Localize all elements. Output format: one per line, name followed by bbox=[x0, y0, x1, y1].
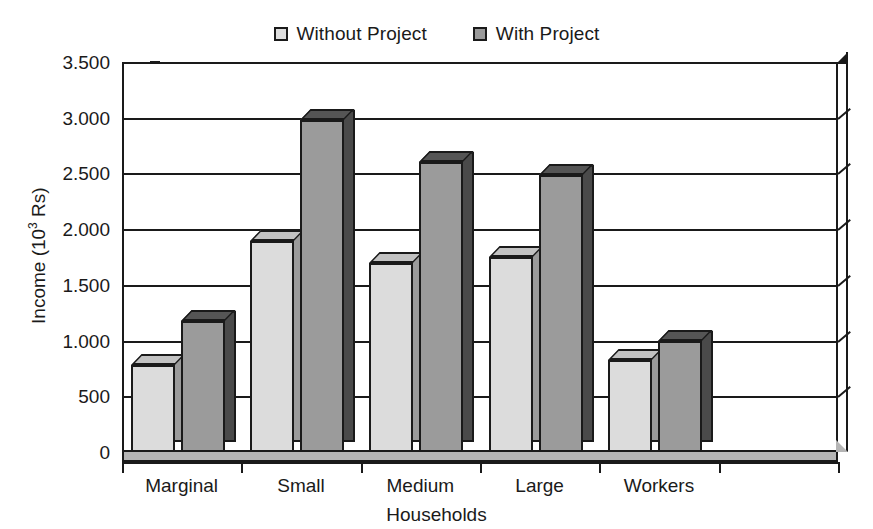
legend-swatch-icon-with-project bbox=[473, 27, 487, 41]
x-axis-tick-mark bbox=[599, 462, 601, 473]
x-axis-title: Households bbox=[0, 505, 873, 525]
y-axis-tick-label: 1.000 bbox=[38, 332, 110, 351]
x-axis-tick-mark bbox=[122, 462, 124, 473]
legend-item-with-project: With Project bbox=[473, 24, 600, 43]
gridline bbox=[122, 396, 838, 398]
x-axis-tick-mark bbox=[361, 462, 363, 473]
x-axis-tick-mark bbox=[838, 462, 840, 473]
y-axis-tick-label: 0 bbox=[38, 443, 110, 462]
y-axis-tick-label: 2.500 bbox=[38, 164, 110, 183]
legend-swatch-icon-without-project bbox=[274, 27, 288, 41]
y-axis-tick-labels: 05001.0001.5002.0002.5003.0003.500 bbox=[38, 0, 110, 529]
y-axis-tick-label: 1.500 bbox=[38, 276, 110, 295]
x-axis-tick-mark bbox=[241, 462, 243, 473]
chart-legend: Without Project With Project bbox=[0, 24, 873, 43]
y-axis-tick-label: 3.000 bbox=[38, 109, 110, 128]
y-axis-tick-label: 2.000 bbox=[38, 220, 110, 239]
plot-depth-corner bbox=[836, 52, 848, 64]
gridline bbox=[122, 118, 838, 120]
legend-label-with-project: With Project bbox=[496, 24, 600, 43]
gridline bbox=[122, 229, 838, 231]
x-axis-tick-mark bbox=[719, 462, 721, 473]
plot-area bbox=[122, 62, 838, 452]
plot-floor bbox=[122, 450, 838, 462]
gridline bbox=[122, 173, 838, 175]
plot-floor-corner bbox=[836, 440, 848, 452]
legend-label-without-project: Without Project bbox=[297, 24, 427, 43]
x-axis-tick-label: Workers bbox=[579, 476, 739, 496]
gridline bbox=[122, 341, 838, 343]
y-axis-tick-label: 500 bbox=[38, 387, 110, 406]
x-axis-tick-mark bbox=[480, 462, 482, 473]
y-axis-tick-label: 3.500 bbox=[38, 53, 110, 72]
gridline bbox=[122, 285, 838, 287]
legend-item-without-project: Without Project bbox=[274, 24, 427, 43]
plot-back-wall bbox=[122, 62, 838, 452]
bar-chart: Without Project With Project Income (103… bbox=[0, 0, 873, 529]
